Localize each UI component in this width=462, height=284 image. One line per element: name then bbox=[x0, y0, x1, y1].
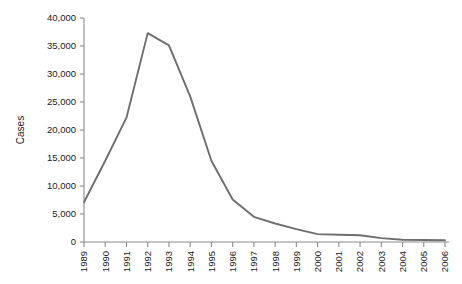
x-tick-label: 2004 bbox=[397, 251, 408, 272]
y-axis-ticks bbox=[80, 18, 84, 242]
y-axis-tick-labels: 05,00010,00015,00020,00025,00030,00035,0… bbox=[47, 12, 76, 247]
data-series-group bbox=[84, 33, 445, 240]
x-tick-label: 2001 bbox=[333, 251, 344, 272]
y-axis-title: Cases bbox=[15, 116, 26, 144]
x-axis-ticks bbox=[84, 242, 445, 247]
x-tick-label: 1989 bbox=[78, 251, 89, 272]
x-tick-label: 2000 bbox=[312, 251, 323, 272]
line-chart: 05,00010,00015,00020,00025,00030,00035,0… bbox=[0, 0, 462, 284]
x-tick-label: 1998 bbox=[270, 251, 281, 272]
y-tick-label: 15,000 bbox=[47, 152, 76, 163]
x-tick-label: 1992 bbox=[142, 251, 153, 272]
x-tick-label: 2005 bbox=[418, 251, 429, 272]
x-tick-label: 1997 bbox=[248, 251, 259, 272]
y-tick-label: 30,000 bbox=[47, 68, 76, 79]
x-tick-label: 2006 bbox=[439, 251, 450, 272]
x-tick-label: 1996 bbox=[227, 251, 238, 272]
y-tick-label: 20,000 bbox=[47, 124, 76, 135]
x-tick-label: 1993 bbox=[163, 251, 174, 272]
x-tick-label: 2003 bbox=[376, 251, 387, 272]
x-tick-label: 1999 bbox=[291, 251, 302, 272]
y-tick-label: 10,000 bbox=[47, 180, 76, 191]
chart-canvas: 05,00010,00015,00020,00025,00030,00035,0… bbox=[0, 0, 462, 284]
series-line-cases bbox=[84, 33, 445, 240]
x-tick-label: 1990 bbox=[100, 251, 111, 272]
y-tick-label: 25,000 bbox=[47, 96, 76, 107]
x-tick-label: 1995 bbox=[206, 251, 217, 272]
y-tick-label: 0 bbox=[71, 236, 76, 247]
x-tick-label: 2002 bbox=[354, 251, 365, 272]
y-tick-label: 35,000 bbox=[47, 40, 76, 51]
x-axis-tick-labels: 1989199019911992199319941995199619971998… bbox=[78, 251, 450, 272]
y-tick-label: 5,000 bbox=[52, 208, 76, 219]
x-tick-label: 1994 bbox=[185, 251, 196, 272]
y-tick-label: 40,000 bbox=[47, 12, 76, 23]
x-tick-label: 1991 bbox=[121, 251, 132, 272]
